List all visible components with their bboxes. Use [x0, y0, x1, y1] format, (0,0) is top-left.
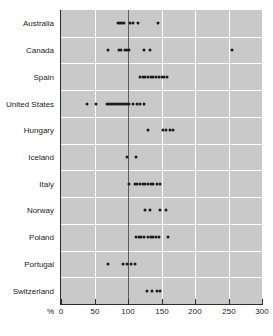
gridline-horizontal: [61, 277, 262, 278]
y-axis-tick-label: United States: [6, 99, 58, 108]
data-point: [125, 156, 128, 159]
data-point: [139, 102, 142, 105]
gridline-vertical: [95, 10, 96, 304]
data-point: [128, 182, 131, 185]
data-point: [128, 102, 131, 105]
data-point: [132, 22, 135, 25]
data-point: [125, 262, 128, 265]
data-point: [135, 156, 138, 159]
data-point: [143, 49, 146, 52]
data-point: [143, 102, 146, 105]
gridline-horizontal: [61, 251, 262, 252]
x-axis-tick-label: 150: [147, 307, 177, 316]
y-axis-tick-label: Hungary: [24, 126, 58, 135]
data-point: [143, 209, 146, 212]
data-point: [157, 236, 160, 239]
y-axis-tick-label: Australia: [23, 19, 58, 28]
gridline-horizontal: [61, 90, 262, 91]
data-point: [149, 49, 152, 52]
y-axis-tick-label: Spain: [34, 72, 58, 81]
data-point: [94, 102, 97, 105]
x-axis-tick-label: 100: [113, 307, 143, 316]
x-axis-tick: [61, 299, 62, 304]
gridline-vertical: [162, 10, 163, 304]
plot-area: [61, 10, 262, 304]
x-axis-tick: [195, 299, 196, 304]
x-axis-tick-label: 50: [80, 307, 110, 316]
x-axis-tick-label: 0: [46, 307, 76, 316]
data-point: [164, 209, 167, 212]
data-point: [159, 289, 162, 292]
x-axis-tick: [128, 299, 129, 304]
gridline-horizontal: [61, 37, 262, 38]
data-point: [106, 262, 109, 265]
data-point: [165, 75, 168, 78]
gridline-horizontal: [61, 144, 262, 145]
y-axis-tick-label: Poland: [29, 233, 58, 242]
gridline-horizontal: [61, 170, 262, 171]
gridline-horizontal: [61, 224, 262, 225]
data-point: [149, 209, 152, 212]
x-axis-tick-label: 300: [247, 307, 273, 316]
data-point: [127, 49, 130, 52]
gridline-vertical: [195, 10, 196, 304]
gridline-horizontal: [61, 197, 262, 198]
x-axis-tick: [262, 299, 263, 304]
x-axis-tick: [229, 299, 230, 304]
data-point: [143, 236, 146, 239]
data-point: [157, 22, 160, 25]
y-axis-line: [60, 10, 61, 304]
data-point: [145, 289, 148, 292]
y-axis-tick-label: Switzerland: [13, 286, 58, 295]
x-axis-tick: [162, 299, 163, 304]
y-axis-tick-label: Norway: [27, 206, 58, 215]
data-point: [167, 236, 170, 239]
data-point: [137, 22, 140, 25]
x-axis-line: [60, 304, 263, 305]
y-axis-tick-label: Italy: [39, 179, 58, 188]
y-axis-tick-label: Portugal: [24, 259, 58, 268]
data-point: [230, 49, 233, 52]
data-point: [122, 22, 125, 25]
gridline-horizontal: [61, 63, 262, 64]
data-point: [133, 262, 136, 265]
data-point: [121, 262, 124, 265]
x-axis-tick-label: 200: [180, 307, 210, 316]
data-point: [171, 129, 174, 132]
chart-figure: AustraliaCanadaSpainUnited StatesHungary…: [0, 0, 273, 336]
gridline-horizontal: [61, 117, 262, 118]
data-point: [106, 49, 109, 52]
data-point: [159, 209, 162, 212]
y-axis-labels: AustraliaCanadaSpainUnited StatesHungary…: [0, 0, 58, 336]
gridline-vertical: [229, 10, 230, 304]
y-axis-tick-label: Canada: [26, 46, 58, 55]
x-axis-tick: [95, 299, 96, 304]
x-axis-tick-label: 250: [214, 307, 244, 316]
y-axis-tick-label: Iceland: [28, 153, 58, 162]
data-point: [151, 289, 154, 292]
data-point: [86, 102, 89, 105]
data-point: [159, 182, 162, 185]
data-point: [147, 129, 150, 132]
data-point: [120, 49, 123, 52]
